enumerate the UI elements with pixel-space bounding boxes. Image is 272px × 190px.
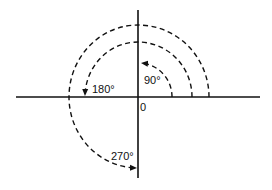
origin-label: 0 (140, 101, 146, 113)
label-270: 270° (111, 150, 134, 162)
label-180: 180° (92, 83, 115, 95)
label-90: 90° (144, 74, 161, 86)
angle-diagram: 90° 180° 270° 0 (0, 0, 272, 190)
